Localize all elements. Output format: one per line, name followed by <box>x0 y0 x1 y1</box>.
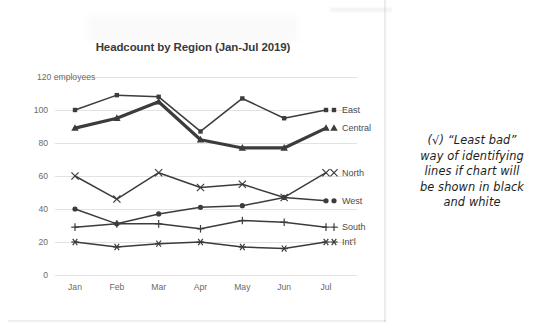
data-point-marker <box>71 239 78 245</box>
data-point-marker <box>198 205 203 210</box>
x-axis-tick-label: Jan <box>68 282 82 292</box>
data-point-marker <box>240 203 245 208</box>
data-point-marker <box>73 108 77 112</box>
y-axis-tick-label: 0 <box>43 270 48 280</box>
slide-canvas: Headcount by Region (Jan-Jul 2019) 02040… <box>0 0 386 334</box>
data-point-marker <box>155 241 162 247</box>
series-south <box>71 217 330 233</box>
series-label-text: West <box>342 196 363 206</box>
data-point-marker <box>282 116 286 120</box>
annotation-line: (√) “Least bad” <box>396 133 548 149</box>
y-axis-tick-label: 80 <box>38 138 48 148</box>
y-axis-tick-label: 120 employees <box>37 72 95 82</box>
data-point-marker <box>239 217 247 225</box>
series-label-text: Int'l <box>342 237 356 247</box>
y-axis-tick-label: 40 <box>38 204 48 214</box>
line-chart: 020406080100120 employees JanFebMarAprMa… <box>0 0 386 334</box>
data-point-marker <box>156 211 161 216</box>
annotation-line: way of identifying <box>396 149 548 165</box>
data-point-marker <box>115 93 119 97</box>
series-label-text: North <box>342 168 364 178</box>
series-line <box>75 197 326 223</box>
series-label-text: East <box>342 105 361 115</box>
series-label-west: West <box>331 196 362 206</box>
data-point-marker <box>322 239 329 245</box>
data-point-marker <box>332 108 336 112</box>
data-series-layer <box>71 93 330 252</box>
x-axis-tick-label: May <box>234 282 251 292</box>
y-axis-tick-label: 20 <box>38 237 48 247</box>
data-point-marker <box>323 198 328 203</box>
x-axis-tick-label: Jul <box>321 282 332 292</box>
y-axis-tick-label: 100 <box>34 105 49 115</box>
series-label-text: Central <box>342 123 371 133</box>
data-point-marker <box>322 124 329 131</box>
annotation-line: and white <box>396 195 548 211</box>
data-point-marker <box>324 108 328 112</box>
data-point-marker <box>197 239 204 245</box>
series-label-south: South <box>330 222 365 232</box>
data-point-marker <box>330 223 338 231</box>
x-axis-tick-labels: JanFebMarAprMayJunJul <box>68 282 332 292</box>
data-point-marker <box>322 169 329 176</box>
data-point-marker <box>330 239 337 245</box>
data-point-marker <box>322 223 330 231</box>
x-axis-tick-label: Mar <box>151 282 166 292</box>
data-point-marker <box>155 169 162 176</box>
series-label-text: South <box>342 222 366 232</box>
data-point-marker <box>240 96 244 100</box>
data-point-marker <box>331 198 336 203</box>
series-label-intl: Int'l <box>330 237 355 247</box>
data-point-marker <box>280 218 288 226</box>
x-axis-tick-label: Apr <box>194 282 208 292</box>
data-point-marker <box>330 124 337 131</box>
data-point-marker <box>280 245 287 251</box>
data-point-marker <box>71 223 79 231</box>
series-intl <box>71 239 329 252</box>
data-point-marker <box>113 220 121 228</box>
x-axis-tick-label: Feb <box>109 282 124 292</box>
slide-bottom-edge <box>8 320 386 323</box>
data-point-marker <box>239 244 246 250</box>
data-point-marker <box>155 220 163 228</box>
data-point-marker <box>198 129 202 133</box>
data-point-marker <box>282 195 287 200</box>
data-point-marker <box>72 206 77 211</box>
handwritten-annotation: (√) “Least bad”way of identifyinglines i… <box>396 133 548 211</box>
x-axis-tick-label: Jun <box>277 282 291 292</box>
y-axis-tick-label: 60 <box>38 171 48 181</box>
series-west <box>72 195 328 227</box>
annotation-line: lines if chart will <box>396 164 548 180</box>
data-point-marker <box>113 196 120 203</box>
series-line <box>75 95 326 131</box>
series-east <box>73 93 328 134</box>
series-label-east: East <box>332 105 361 115</box>
data-point-marker <box>113 244 120 250</box>
annotation-line: be shown in black <box>396 180 548 196</box>
chart-plot-area: 020406080100120 employees JanFebMarAprMa… <box>0 0 386 334</box>
data-point-marker <box>197 225 205 233</box>
data-point-marker <box>330 169 337 176</box>
series-line <box>75 173 326 199</box>
series-label-central: Central <box>330 123 371 133</box>
slide-right-edge <box>384 0 387 322</box>
